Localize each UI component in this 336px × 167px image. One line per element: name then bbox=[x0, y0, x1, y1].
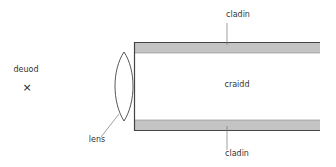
source-marker-icon: × bbox=[22, 82, 31, 93]
fibre-diagram: cladin craidd cladin lens deuod × bbox=[0, 0, 336, 167]
label-cladding-bottom: cladin bbox=[225, 149, 249, 158]
leader-lens bbox=[101, 114, 119, 137]
fibre-diagram-graphic bbox=[0, 0, 336, 167]
label-lens: lens bbox=[89, 135, 105, 144]
label-source: deuod bbox=[13, 65, 38, 74]
label-cladding-top: cladin bbox=[226, 10, 250, 19]
label-core: craidd bbox=[225, 80, 250, 89]
lens-shape bbox=[115, 52, 133, 121]
